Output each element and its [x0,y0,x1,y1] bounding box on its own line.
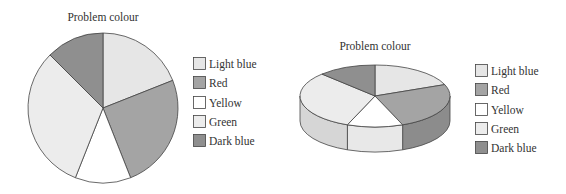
legend-label: Light blue [209,58,257,71]
legend-swatch [476,84,488,96]
legend-label: Dark blue [209,135,255,147]
legend-swatch [194,135,206,147]
legend-swatch [476,123,488,135]
legend: Light blue Red Yellow Green Dark blue [476,65,539,154]
legend-label: Red [209,77,228,89]
legend: Light blue Red Yellow Green Dark blue [194,58,257,147]
legend-item: Yellow [476,104,525,116]
legend-swatch [476,65,488,77]
legend-item: Green [476,123,520,135]
pie-slices [28,33,178,183]
legend-item: Dark blue [194,135,255,147]
legend-item: Green [194,116,238,128]
chart-title: Problem colour [339,40,410,52]
legend-label: Yellow [491,104,524,116]
legend-label: Light blue [491,65,539,78]
legend-item: Red [476,84,510,96]
legend-item: Yellow [194,97,243,109]
legend-item: Light blue [194,58,257,71]
legend-swatch [476,142,488,154]
pie-side-yellow [347,125,402,152]
legend-label: Green [209,116,237,128]
legend-swatch [194,97,206,109]
legend-item: Dark blue [476,142,537,154]
legend-swatch [194,77,206,89]
legend-swatch [194,116,206,128]
legend-swatch [476,104,488,116]
chart-title: Problem colour [67,11,138,23]
legend-label: Red [491,84,510,96]
chart-canvas: Problem colour Light blue Red Yellow Gre… [0,0,566,194]
pie-chart-3d: Problem colour Light blue Red Yellow Gre… [300,40,539,154]
pie-slices [300,65,450,127]
legend-item: Red [194,77,228,89]
legend-swatch [194,58,206,70]
legend-label: Yellow [209,97,242,109]
legend-item: Light blue [476,65,539,78]
legend-label: Green [491,123,519,135]
legend-label: Dark blue [491,142,537,154]
pie-chart-2d: Problem colour Light blue Red Yellow Gre… [28,11,257,183]
